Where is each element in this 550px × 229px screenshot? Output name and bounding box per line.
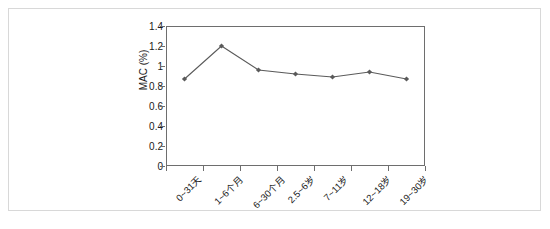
data-point [330, 74, 335, 79]
data-point [404, 76, 409, 81]
data-series-layer [0, 0, 550, 229]
series-markers-mac [182, 43, 409, 81]
data-point [367, 69, 372, 74]
chart-container: MAC (%) 00.20.40.60.811.21.4 0~31天1~6个月6… [0, 0, 550, 229]
data-point [293, 71, 298, 76]
